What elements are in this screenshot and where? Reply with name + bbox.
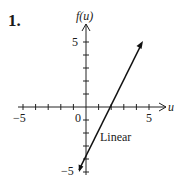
y-tick-label-neg5: −5 [61, 164, 74, 178]
y-tick-label-5: 5 [72, 35, 78, 49]
problem-number: 1. [8, 11, 21, 30]
x-tick-label-0: 0 [75, 111, 81, 125]
linear-function-plot: 1. f(u) u −5 0 5 5 −5 L [0, 0, 183, 181]
x-axis-label: u [168, 100, 174, 114]
x-tick-label-neg5: −5 [13, 111, 26, 125]
line-arrow-start-icon [79, 165, 84, 173]
line-arrow-end-icon [137, 41, 144, 49]
curve-label: Linear [100, 130, 131, 144]
x-tick-label-5: 5 [146, 111, 152, 125]
y-axis-label: f(u) [76, 9, 93, 23]
